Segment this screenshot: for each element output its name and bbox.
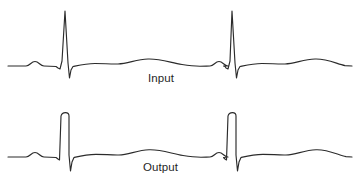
- input-ecg-waveform: [0, 0, 353, 91]
- input-ecg-path: [8, 11, 352, 78]
- input-trace-panel: [0, 0, 353, 91]
- output-ecg-path: [8, 113, 352, 171]
- input-label: Input: [148, 73, 174, 85]
- output-label: Output: [143, 162, 178, 174]
- ecg-figure: Input Output: [0, 0, 353, 182]
